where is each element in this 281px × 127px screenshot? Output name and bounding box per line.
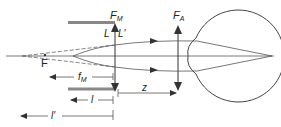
label-FM: FM: [110, 9, 123, 22]
ray-arrow-lower: [150, 67, 158, 73]
label-L: L: [104, 28, 110, 39]
label-FA: FA: [173, 9, 185, 22]
ray-arrow-upper: [150, 38, 158, 44]
focal-point-dot: [44, 54, 46, 56]
optics-diagram: FM FA L L' F fM z l l': [0, 0, 281, 127]
label-L-prime: L': [118, 28, 127, 39]
label-z: z: [141, 82, 147, 93]
z-dimension: [118, 89, 176, 97]
l-prime-dimension: [21, 110, 113, 120]
label-F: F: [41, 57, 48, 69]
